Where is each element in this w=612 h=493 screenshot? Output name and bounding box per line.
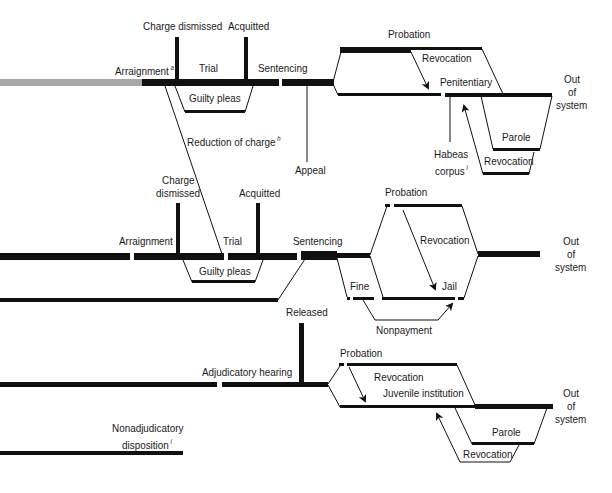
row3-parole-label: Parole: [492, 426, 521, 439]
row2-nonpayment-path: [363, 300, 452, 320]
row3-out-label-2: of: [567, 400, 575, 413]
row3-revocation-label: Revocation: [374, 371, 423, 384]
row2-acquitted-bar: [256, 203, 260, 255]
reduction-of-charge-label: Reduction of chargeh: [187, 132, 281, 149]
row1-penitentiary-line-a: [338, 93, 441, 96]
row1-penitentiary-line-b: [445, 93, 552, 97]
habeas-corpus-label-line1: Habeas: [434, 148, 468, 161]
row2-fine-label: Fine: [350, 280, 369, 293]
row1-arraignment-label: Arraignmenta: [115, 61, 174, 78]
row1-probation-line-thick: [340, 47, 411, 53]
row1-penitentiary-label: Penitentiary: [440, 76, 492, 89]
row1-parole-label: Parole: [502, 131, 531, 144]
row3-probation-label: Probation: [340, 347, 382, 360]
row1-out-label-3: system: [556, 99, 587, 112]
row1-acquitted-bar: [244, 37, 248, 82]
row2-acquitted-label: Acquitted: [239, 187, 280, 200]
row2-probation-line: [394, 204, 462, 207]
footnote-marker: i: [170, 438, 171, 445]
row2-revocation-label: Revocation: [420, 234, 469, 247]
row2-sentencing-label: Sentencing: [293, 235, 342, 248]
footnote-marker: a: [171, 64, 174, 71]
row2-charge-dismissed-label-1: Charge: [162, 174, 194, 187]
row1-probation-line: [411, 47, 482, 50]
row3-released-bar: [299, 323, 304, 385]
row2-jail-line: [382, 297, 455, 300]
row2-charge-dismissed-label-2: dismissed: [156, 187, 200, 200]
row3-juvenile-flow: [0, 323, 553, 462]
row1-parole-revocation-label: Revocation: [484, 155, 533, 168]
row2-misdemeanor-flow: [0, 203, 540, 320]
row3-juvenile-institution-line-b: [475, 404, 553, 409]
row2-nonpayment-label: Nonpayment: [376, 324, 432, 337]
row2-arraignment-label: Arraignment: [119, 235, 173, 248]
row2-jail-label: Jail: [442, 280, 457, 293]
row1-trial-label: Trial: [199, 62, 218, 75]
row3-juvenile-institution-line-a: [340, 405, 475, 408]
row2-out-label-1: Out: [563, 235, 579, 248]
row1-arraignment-trial-line: [142, 79, 279, 86]
row1-sentencing-line: [282, 79, 334, 86]
appeal-label: Appeal: [295, 164, 326, 177]
row3-out-label-1: Out: [563, 387, 579, 400]
row1-out-label-2: of: [568, 86, 576, 99]
row3-out-label-3: system: [555, 413, 586, 426]
nonadjudicatory-label-1: Nonadjudicatory: [112, 422, 183, 435]
row3-parole-revocation-label: Revocation: [463, 448, 512, 461]
row2-trial-label: Trial: [223, 235, 242, 248]
nonadjudicatory-label-2: dispositioni: [122, 435, 172, 452]
row1-gray-intake-line: [0, 79, 142, 86]
habeas-corpus-label-line2: corpusi: [435, 161, 468, 178]
row1-acquitted-label: Acquitted: [228, 20, 269, 33]
row1-guilty-pleas-label: Guilty pleas: [189, 92, 241, 105]
row3-released-label: Released: [286, 306, 328, 319]
row1-sentencing-label: Sentencing: [258, 62, 307, 75]
row2-guilty-pleas-label: Guilty pleas: [199, 265, 251, 278]
row1-charge-dismissed-label: Charge dismissed: [143, 20, 222, 33]
row2-out-line: [478, 251, 540, 257]
row1-revocation-label: Revocation: [422, 52, 471, 65]
row2-probation-label: Probation: [385, 186, 427, 199]
row2-out-label-2: of: [567, 248, 575, 261]
row2-fine-line: [353, 297, 374, 300]
row2-charge-dismissed-bar: [176, 203, 180, 255]
footnote-marker: h: [277, 135, 280, 142]
row1-probation-label: Probation: [388, 28, 430, 41]
row3-probation-line: [347, 363, 457, 366]
row3-adjudicatory-hearing-label: Adjudicatory hearing: [202, 366, 292, 379]
row2-out-label-3: system: [555, 261, 586, 274]
row3-revocation-arrow: [349, 367, 365, 401]
row1-out-label-1: Out: [564, 73, 580, 86]
row1-charge-dismissed-bar: [175, 37, 179, 82]
row3-juvenile-institution-label: Juvenile institution: [383, 387, 464, 400]
row2-revocation-arrow: [403, 210, 435, 289]
footnote-marker: i: [466, 164, 467, 171]
